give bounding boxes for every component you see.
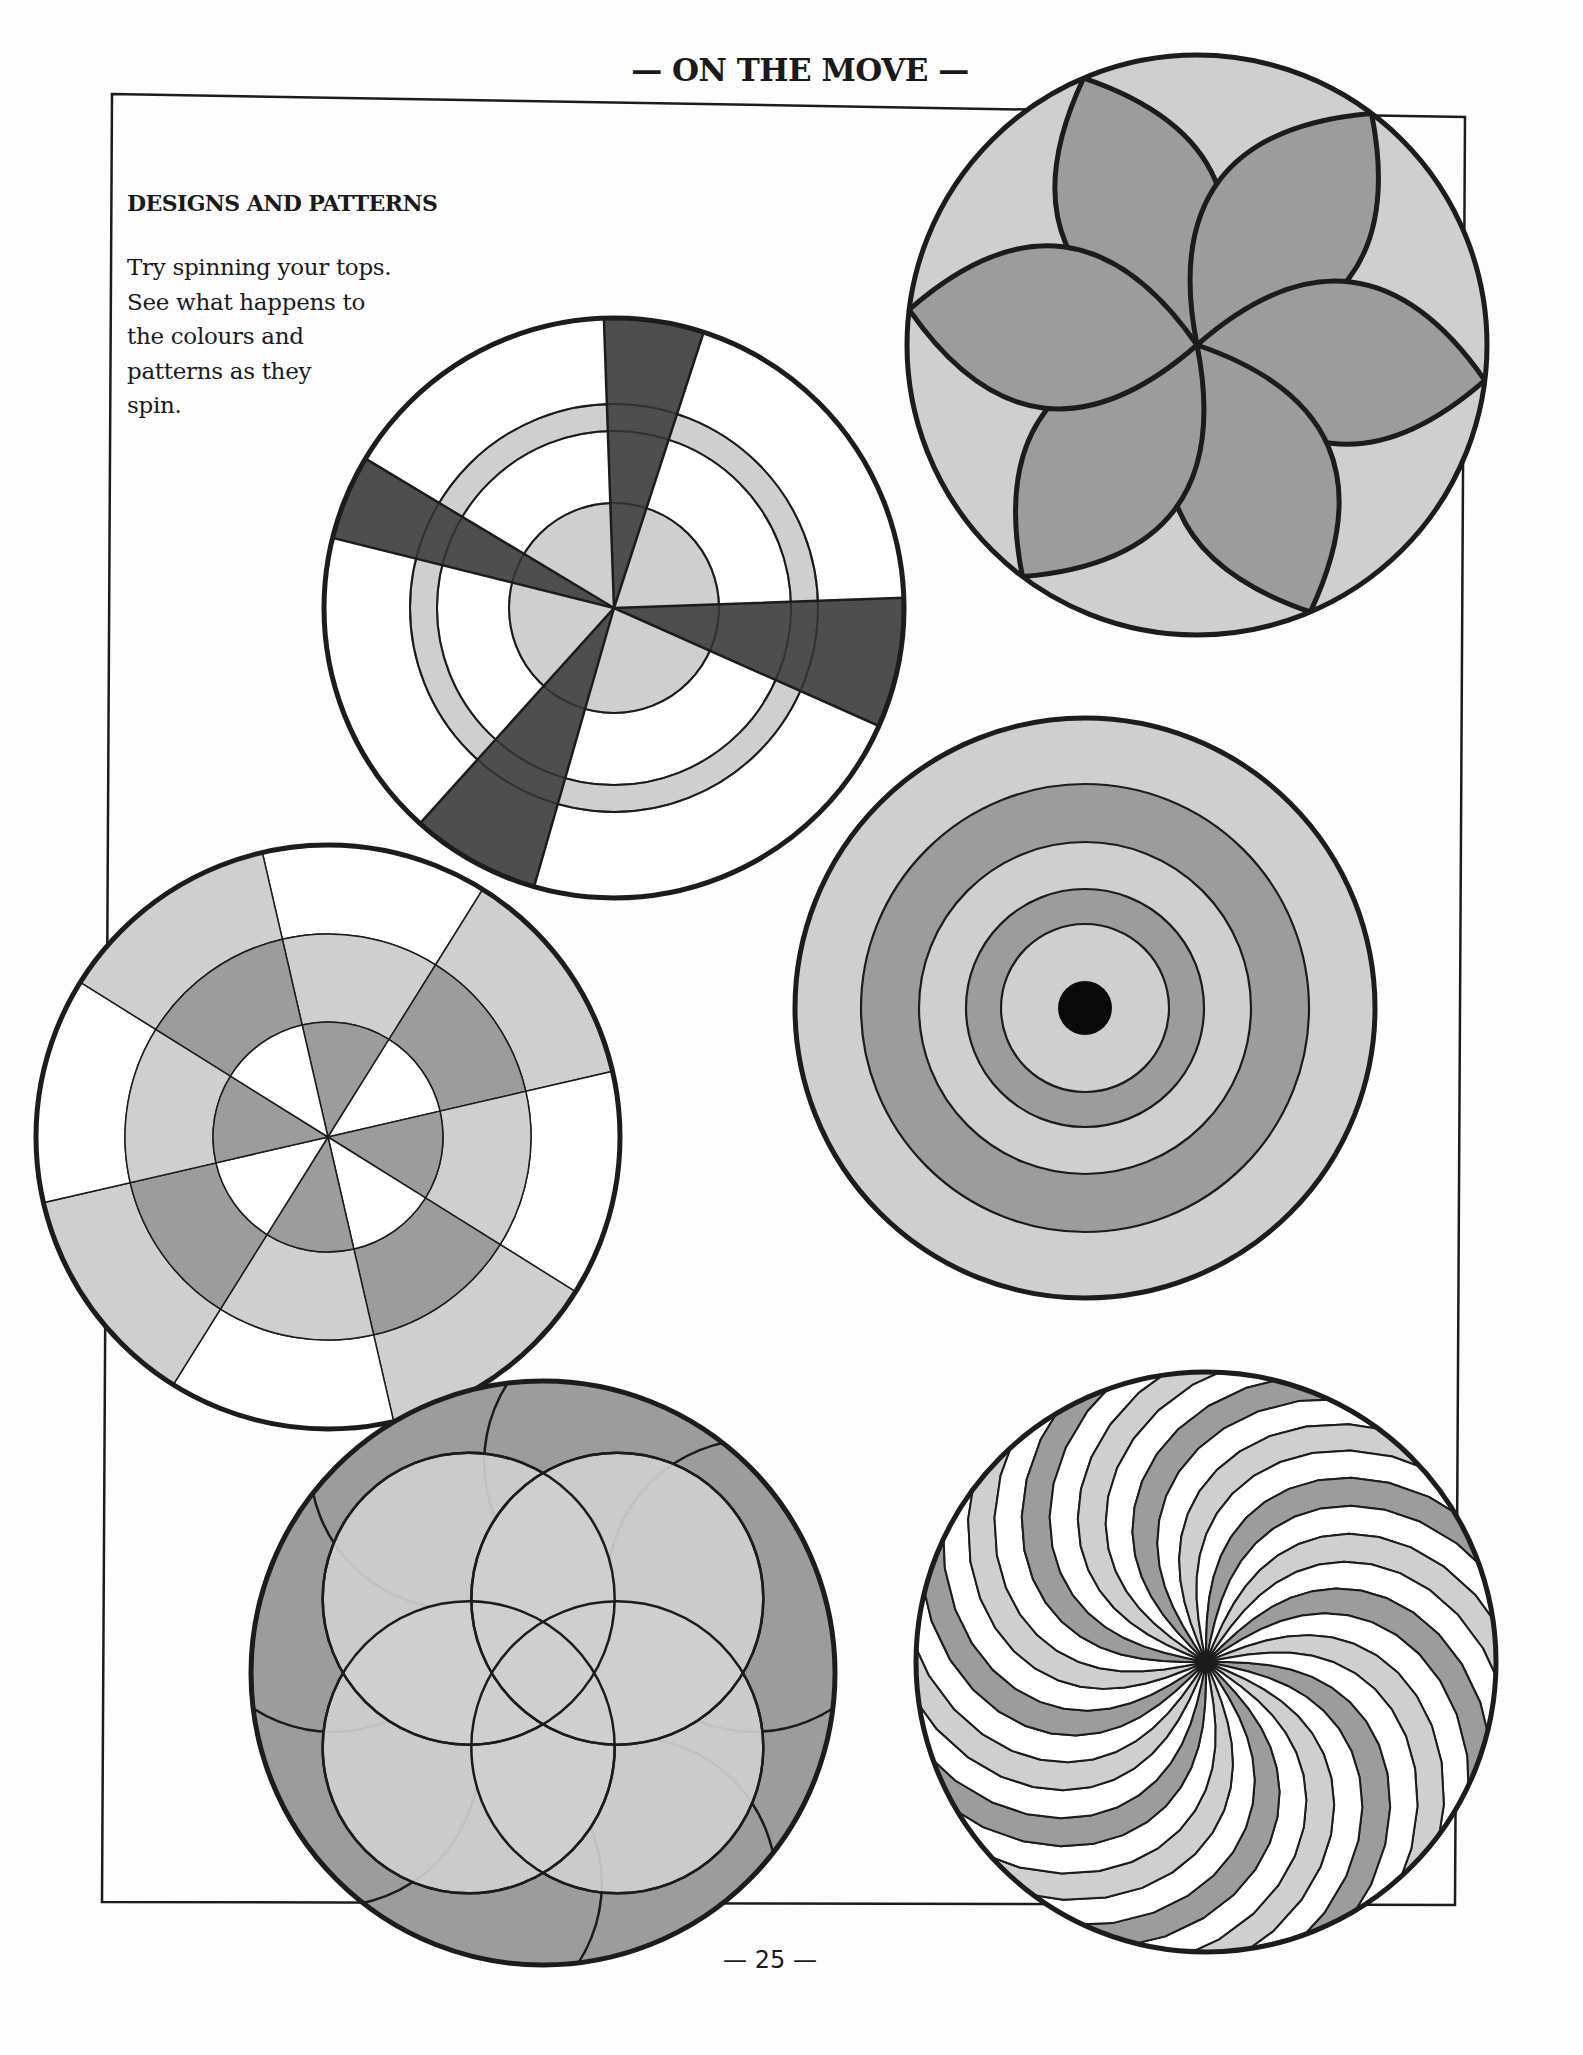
instruction-line: patterns as they bbox=[127, 354, 457, 389]
page: — ON THE MOVE — DESIGNS AND PATTERNS Try… bbox=[0, 0, 1583, 2055]
instruction-line: spin. bbox=[127, 388, 457, 423]
instruction-line: Try spinning your tops. bbox=[127, 250, 457, 285]
concentric-target-top-design bbox=[795, 718, 1375, 1298]
section-heading: DESIGNS AND PATTERNS bbox=[127, 190, 437, 216]
segmented-ring-top-design bbox=[31, 840, 625, 1434]
instruction-text: Try spinning your tops. See what happens… bbox=[127, 250, 457, 423]
instruction-line: the colours and bbox=[127, 319, 457, 354]
instruction-line: See what happens to bbox=[127, 285, 457, 320]
flower-petal-top-design bbox=[907, 55, 1487, 635]
page-title: — ON THE MOVE — bbox=[600, 52, 1000, 88]
spiral-top-design bbox=[909, 1365, 1504, 1960]
center-dot bbox=[1058, 981, 1112, 1035]
page-number: — 25 — bbox=[700, 1946, 840, 1974]
